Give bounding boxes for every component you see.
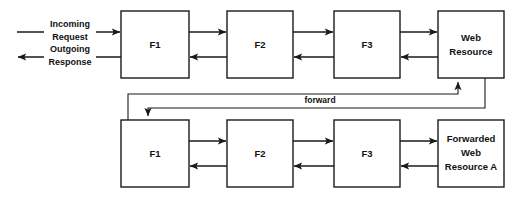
flow-diagram: Incoming Request Outgoing Response F1 [0, 0, 521, 202]
box-bottom-f3-label: F3 [361, 148, 372, 159]
box-top-f1[interactable]: F1 [121, 11, 189, 78]
outgoing-response-label-line1: Outgoing [50, 44, 90, 54]
box-top-web-resource-label-line2: Resource [449, 46, 492, 57]
forward-label: forward [304, 95, 335, 105]
incoming-request-label-line1: Incoming [50, 19, 90, 29]
box-top-f2[interactable]: F2 [227, 11, 293, 78]
diagram-canvas: Incoming Request Outgoing Response F1 [0, 0, 521, 202]
box-bottom-f3[interactable]: F3 [334, 120, 400, 187]
incoming-request-label-line2: Request [52, 32, 88, 42]
box-top-web-resource[interactable]: Web Resource [438, 11, 504, 78]
box-top-web-resource-label-line1: Web [461, 32, 481, 43]
box-bottom-forwarded-resource[interactable]: Forwarded Web Resource A [438, 120, 504, 187]
box-bottom-forwarded-resource-label-line1: Forwarded [447, 133, 496, 144]
box-bottom-f1[interactable]: F1 [121, 120, 189, 187]
box-bottom-f1-label: F1 [149, 148, 161, 159]
box-bottom-forwarded-resource-label-line2: Web [461, 147, 481, 158]
forward-connector-up [128, 82, 458, 120]
outgoing-response-label-line2: Response [48, 57, 91, 67]
box-bottom-forwarded-resource-label-line3: Resource A [445, 161, 498, 172]
box-top-f1-label: F1 [149, 39, 161, 50]
box-top-f3[interactable]: F3 [334, 11, 400, 78]
box-bottom-f2[interactable]: F2 [227, 120, 293, 187]
box-top-f2-label: F2 [254, 39, 265, 50]
box-bottom-f2-label: F2 [254, 148, 265, 159]
box-top-f3-label: F3 [361, 39, 372, 50]
